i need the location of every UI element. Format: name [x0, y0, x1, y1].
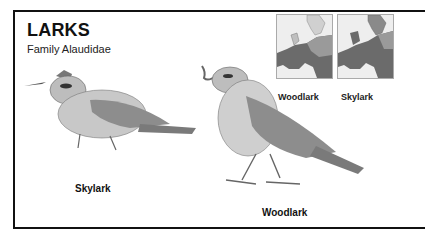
- family-subtitle: Family Alaudidae: [27, 43, 111, 55]
- page-title: LARKS: [27, 20, 90, 41]
- skylark-label: Skylark: [75, 183, 111, 194]
- woodlark-illustration-icon: [196, 60, 366, 190]
- woodlark-label: Woodlark: [262, 207, 307, 218]
- skylark-illustration-icon: [20, 68, 200, 158]
